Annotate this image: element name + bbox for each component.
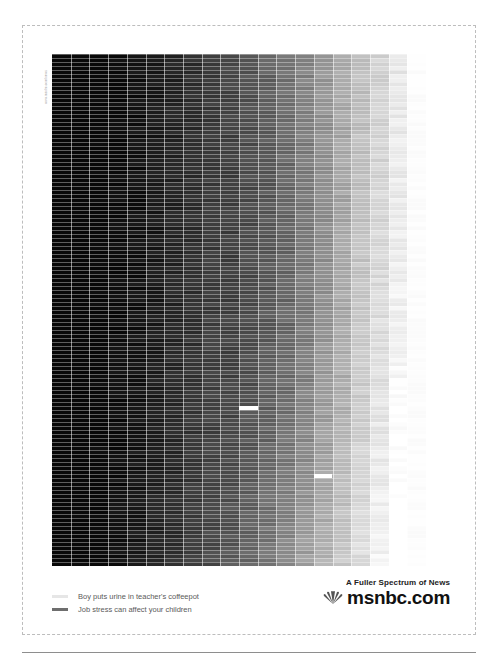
- legend: Boy puts urine in teacher's coffeepot Jo…: [52, 590, 199, 616]
- legend-label: Job stress can affect your children: [78, 605, 192, 614]
- highlight-boy-urine: [239, 406, 258, 410]
- legend-swatch-light: [52, 595, 68, 598]
- headline-grid: [52, 54, 426, 566]
- bottom-rule: [22, 652, 476, 653]
- peacock-icon: [322, 591, 344, 605]
- msnbc-wordmark: msnbc.com: [347, 588, 450, 607]
- brand-block: A Fuller Spectrum of News msnbc.com: [300, 578, 450, 607]
- legend-swatch-dark: [52, 608, 68, 611]
- legend-item: Boy puts urine in teacher's coffeepot: [52, 590, 199, 603]
- gradient-grid-canvas: [52, 54, 426, 566]
- legend-label: Boy puts urine in teacher's coffeepot: [78, 592, 199, 601]
- legend-item: Job stress can affect your children: [52, 603, 199, 616]
- side-label: www.msnbc.com/news: [44, 54, 50, 104]
- logo: msnbc.com: [300, 588, 450, 607]
- highlight-job-stress: [314, 474, 333, 478]
- tagline: A Fuller Spectrum of News: [300, 578, 450, 587]
